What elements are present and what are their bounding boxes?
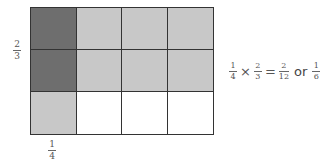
grid-cell-shaded (77, 50, 123, 92)
grid-cell-shaded (31, 92, 77, 134)
or-text: or (294, 64, 307, 79)
denominator: 6 (314, 73, 319, 81)
times-sign: × (240, 64, 251, 79)
fraction-two-thirds: 2 3 (254, 62, 262, 81)
numerator: 2 (281, 62, 286, 70)
grid-cell-empty (168, 92, 214, 134)
col-fraction-denominator: 4 (49, 152, 55, 161)
grid-cell-shaded (122, 8, 168, 50)
row-fraction-denominator: 3 (14, 52, 20, 61)
multiplication-equation: 1 4 × 2 3 = 2 12 or 1 6 (229, 62, 320, 81)
denominator: 4 (230, 73, 235, 81)
grid-cell-shaded (122, 50, 168, 92)
col-fraction-label: 1 4 (48, 140, 56, 161)
fraction-two-twelfths: 2 12 (279, 62, 289, 81)
grid-cell-empty (77, 92, 123, 134)
denominator: 12 (279, 73, 289, 81)
fraction-area-model-grid (30, 7, 214, 135)
numerator: 1 (314, 62, 319, 70)
equals-sign: = (265, 64, 276, 79)
fraction-one-sixth: 1 6 (312, 62, 320, 81)
grid-cell-overlap (31, 50, 77, 92)
row-fraction-label: 2 3 (13, 40, 21, 61)
numerator: 1 (230, 62, 235, 70)
grid-cell-empty (122, 92, 168, 134)
denominator: 3 (255, 73, 260, 81)
grid-cell-shaded (77, 8, 123, 50)
col-fraction-numerator: 1 (49, 140, 55, 149)
numerator: 2 (255, 62, 260, 70)
grid-cell-shaded (168, 8, 214, 50)
grid-cell-shaded (168, 50, 214, 92)
grid-cell-overlap (31, 8, 77, 50)
fraction-one-quarter: 1 4 (229, 62, 237, 81)
row-fraction-numerator: 2 (14, 40, 20, 49)
